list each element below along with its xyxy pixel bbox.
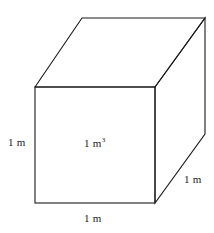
cube-diagram-canvas: 1 m 1 m3 1 m 1 m [0, 0, 214, 233]
bottom-edge-label: 1 m [84, 212, 102, 224]
left-edge-label: 1 m [8, 136, 26, 148]
volume-label-exponent: 3 [102, 136, 106, 144]
volume-label: 1 m3 [84, 137, 106, 149]
right-edge-label: 1 m [184, 173, 202, 185]
cube-wireframe [0, 0, 214, 233]
volume-label-value: 1 m [84, 137, 102, 149]
